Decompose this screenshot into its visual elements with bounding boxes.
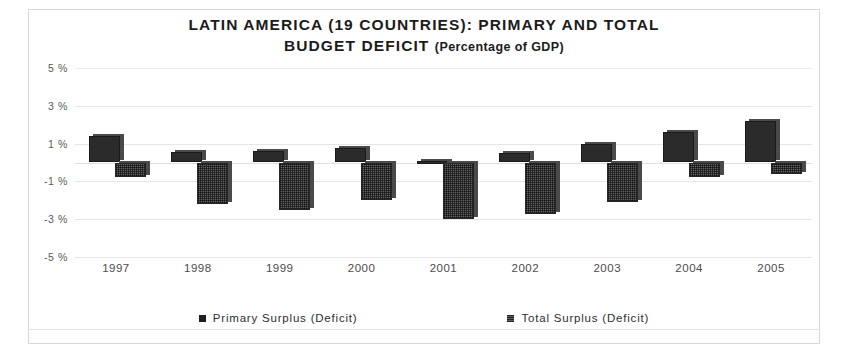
chart-screenshot: LATIN AMERICA (19 COUNTRIES): PRIMARY AN… xyxy=(0,0,855,353)
x-axis-tick-label: 2000 xyxy=(321,262,403,274)
bar-group xyxy=(484,68,566,257)
bar-group xyxy=(730,68,812,257)
x-axis-tick-label: 2002 xyxy=(484,262,566,274)
bar-group xyxy=(239,68,321,257)
x-axis-tick-label: 2005 xyxy=(730,262,812,274)
bar-primary-1999[interactable] xyxy=(253,151,284,162)
bar-primary-2005[interactable] xyxy=(745,121,776,163)
legend-label-total: Total Surplus (Deficit) xyxy=(521,312,649,324)
bar-primary-1998[interactable] xyxy=(171,152,202,162)
x-axis-tick-label: 2001 xyxy=(403,262,485,274)
bar-primary-2002[interactable] xyxy=(499,153,530,162)
y-axis-tick-label: -1 % xyxy=(28,175,68,187)
legend-label-primary: Primary Surplus (Deficit) xyxy=(213,312,358,324)
legend-swatch-primary-icon xyxy=(199,315,206,322)
legend-item-total[interactable]: Total Surplus (Deficit) xyxy=(507,312,649,324)
x-axis-tick-label: 1998 xyxy=(157,262,239,274)
bar-total-2002[interactable] xyxy=(525,163,556,214)
x-axis-tick-label: 1997 xyxy=(75,262,157,274)
legend-swatch-total-icon xyxy=(507,315,514,322)
bar-primary-2004[interactable] xyxy=(663,132,694,162)
bar-primary-2003[interactable] xyxy=(581,144,612,163)
x-axis-tick-label: 1999 xyxy=(239,262,321,274)
chart-title-line1: LATIN AMERICA (19 COUNTRIES): PRIMARY AN… xyxy=(188,16,659,33)
chart-title: LATIN AMERICA (19 COUNTRIES): PRIMARY AN… xyxy=(28,14,820,58)
chart-subtitle: (Percentage of GDP) xyxy=(435,40,564,54)
bar-primary-2000[interactable] xyxy=(335,148,366,162)
bar-group xyxy=(648,68,730,257)
y-axis-tick-label: 1 % xyxy=(28,138,68,150)
chart-legend: Primary Surplus (Deficit) Total Surplus … xyxy=(28,307,820,329)
bar-total-2004[interactable] xyxy=(689,163,720,177)
bar-total-1997[interactable] xyxy=(115,163,146,177)
bar-total-1998[interactable] xyxy=(197,163,228,205)
bar-total-1999[interactable] xyxy=(279,163,310,210)
bar-total-2000[interactable] xyxy=(361,163,392,201)
gridline xyxy=(75,257,812,258)
y-axis-tick-label: -5 % xyxy=(28,251,68,263)
x-axis-tick-label: 2003 xyxy=(566,262,648,274)
bar-groups xyxy=(75,68,812,257)
bar-group xyxy=(403,68,485,257)
bar-group xyxy=(566,68,648,257)
y-axis-tick-label: -3 % xyxy=(28,213,68,225)
bar-group xyxy=(157,68,239,257)
x-axis-tick-label: 2004 xyxy=(648,262,730,274)
legend-item-primary[interactable]: Primary Surplus (Deficit) xyxy=(199,312,358,324)
legend-divider xyxy=(28,329,820,330)
bar-group xyxy=(75,68,157,257)
bar-total-2005[interactable] xyxy=(771,163,802,174)
bar-primary-1997[interactable] xyxy=(89,136,120,162)
y-axis-tick-label: 3 % xyxy=(28,100,68,112)
bar-total-2003[interactable] xyxy=(607,163,638,203)
y-axis-labels: 5 %3 %1 %-1 %-3 %-5 % xyxy=(22,68,68,257)
x-axis-labels: 199719981999200020012002200320042005 xyxy=(75,262,812,284)
bar-total-2001[interactable] xyxy=(443,163,474,220)
chart-title-line2: BUDGET DEFICIT xyxy=(284,37,429,54)
bar-group xyxy=(321,68,403,257)
y-axis-tick-label: 5 % xyxy=(28,62,68,74)
